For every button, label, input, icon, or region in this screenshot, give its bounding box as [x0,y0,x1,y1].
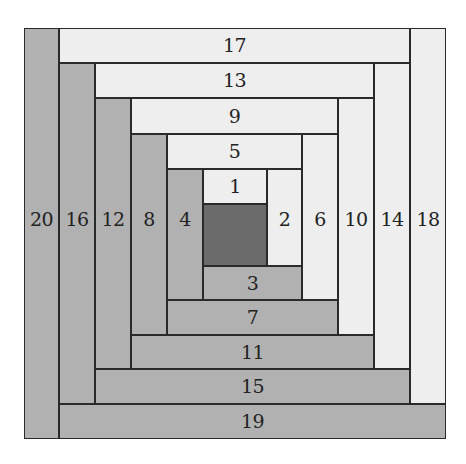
strip-1: 1 [203,169,267,204]
strip-number: 8 [143,210,155,229]
strip-11: 11 [131,335,374,369]
strip-number: 3 [247,274,259,293]
strip-number: 1 [229,177,241,196]
strip-number: 12 [101,210,124,229]
strip-4: 4 [167,169,203,300]
center-square [203,204,267,266]
strip-number: 9 [229,107,241,126]
strip-6: 6 [302,134,338,300]
strip-2: 2 [267,169,302,266]
strip-number: 18 [416,210,439,229]
strip-number: 10 [344,210,367,229]
strip-number: 4 [179,210,191,229]
strip-8: 8 [131,134,167,335]
strip-20: 20 [24,28,59,439]
strip-number: 20 [30,210,53,229]
log-cabin-diagram: 1234567891011121314151617181920 [0,0,466,464]
strip-14: 14 [374,63,410,369]
strip-15: 15 [95,369,410,404]
strip-17: 17 [59,28,410,63]
strip-number: 16 [65,210,88,229]
strip-5: 5 [167,134,302,169]
strip-number: 19 [241,412,264,431]
strip-number: 6 [314,210,326,229]
strip-19: 19 [59,404,446,439]
strip-number: 15 [241,377,264,396]
strip-number: 11 [241,343,264,362]
strip-number: 2 [279,210,291,229]
strip-12: 12 [95,98,131,369]
strip-number: 17 [223,36,246,55]
strip-3: 3 [203,266,302,300]
strip-9: 9 [131,98,338,134]
strip-18: 18 [410,28,446,404]
strip-number: 13 [223,71,246,90]
strip-number: 14 [380,210,403,229]
strip-number: 5 [229,142,241,161]
strip-7: 7 [167,300,338,335]
strip-number: 7 [247,308,259,327]
strip-13: 13 [95,63,374,98]
strip-10: 10 [338,98,374,335]
strip-16: 16 [59,63,95,404]
